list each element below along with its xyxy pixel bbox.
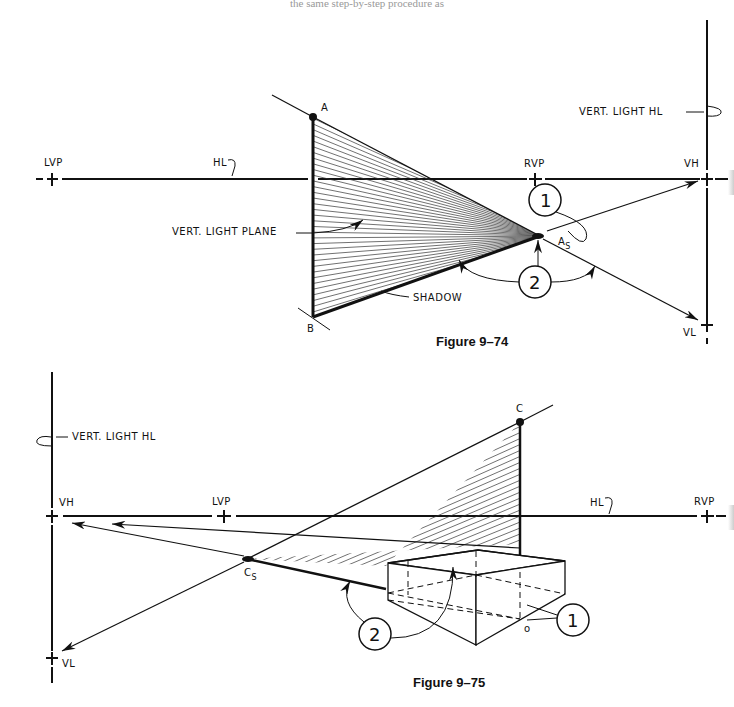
vh-label: VH xyxy=(59,497,74,508)
lvp-label: LVP xyxy=(44,157,63,168)
svg-text:1: 1 xyxy=(540,190,551,211)
arrow-to-vl xyxy=(543,239,698,320)
arrow-to-vl xyxy=(62,562,244,651)
figure-9-75: VERT. LIGHT HL VH LVP HL RVP VL xyxy=(37,372,726,690)
vl-marker-icon xyxy=(701,319,713,332)
callout-2: 2 xyxy=(459,240,595,298)
vl-label: VL xyxy=(62,658,75,669)
svg-text:2: 2 xyxy=(529,272,540,293)
point-as-dot xyxy=(532,233,544,239)
point-a-label: A xyxy=(321,102,328,113)
rvp-marker-icon xyxy=(701,510,714,523)
vl-label: VL xyxy=(683,327,696,338)
vh-marker-icon xyxy=(701,173,713,186)
lvp-label: LVP xyxy=(212,496,231,507)
hl-leader xyxy=(605,498,612,514)
hl-label: HL xyxy=(213,157,227,168)
light-ray-extension xyxy=(520,405,553,422)
point-cs-label: CS xyxy=(244,567,257,582)
figure-9-75-caption: Figure 9–75 xyxy=(413,675,485,690)
point-c-label: C xyxy=(516,403,523,414)
point-cs-dot xyxy=(242,556,254,562)
vh-marker-icon xyxy=(46,510,58,523)
shadow-line xyxy=(313,236,540,317)
svg-text:2: 2 xyxy=(369,624,380,645)
vert-light-plane-label: VERT. LIGHT PLANE xyxy=(172,226,277,237)
perspective-diagrams: LVP HL RVP VH VL VERT. LIGHT HL xyxy=(0,0,734,707)
svg-text:1: 1 xyxy=(567,610,578,631)
rvp-label: RVP xyxy=(524,158,545,169)
arrow-to-vh-2 xyxy=(112,524,520,548)
lvp-marker-icon xyxy=(47,173,58,186)
rvp-label: RVP xyxy=(694,496,715,507)
figure-9-74-caption: Figure 9–74 xyxy=(436,334,509,349)
figure-9-74: LVP HL RVP VH VL VERT. LIGHT HL xyxy=(36,20,728,349)
vh-label: VH xyxy=(684,158,699,169)
point-c-dot xyxy=(516,418,524,426)
point-o-label: o xyxy=(524,623,531,634)
vert-light-hl-curl xyxy=(707,106,721,116)
point-b-label: B xyxy=(307,323,314,334)
vert-light-hl-label: VERT. LIGHT HL xyxy=(579,106,663,117)
hl-label: HL xyxy=(590,497,604,508)
light-ray-extension xyxy=(272,95,313,117)
vert-light-hl-label: VERT. LIGHT HL xyxy=(72,431,156,442)
point-as-label: AS xyxy=(558,236,571,251)
hl-leader xyxy=(228,160,235,176)
vl-marker-icon xyxy=(46,652,58,665)
arrow-to-vh-1 xyxy=(72,523,244,556)
vert-light-hl-curl xyxy=(37,436,52,446)
arrow-to-vh xyxy=(547,181,698,231)
shadow-label: SHADOW xyxy=(413,292,462,303)
point-a-dot xyxy=(309,113,317,121)
lvp-marker-icon xyxy=(217,510,231,523)
